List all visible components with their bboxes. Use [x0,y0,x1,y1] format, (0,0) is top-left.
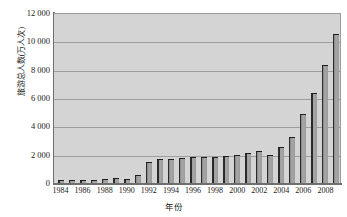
y-tick-label: 12 000 [2,9,50,17]
bar [333,34,339,183]
x-axis-title: 年份 [0,200,347,212]
gridline [54,156,340,157]
gridline [54,99,340,100]
y-tick-label: 2 000 [2,151,50,159]
x-axis-tick-labels: 1984198619881990199219941996199820002002… [0,186,347,198]
plot-area [54,13,341,183]
bar [322,65,328,183]
bar [190,157,196,183]
bar [256,151,262,183]
bar [157,159,163,183]
y-tick-label: 4 000 [2,122,50,130]
bar [179,158,185,183]
bar [267,155,273,183]
bar [135,175,141,183]
bar [300,114,306,183]
bar [168,159,174,183]
bar [278,147,284,183]
bar [201,157,207,183]
bar [245,153,251,183]
bar [311,93,317,183]
bar [234,155,240,183]
bar [146,162,152,183]
gridline [54,42,340,43]
bar-chart: 旅游总人数(万人次) 12 00010 0008 0006 0004 0002 … [0,0,347,217]
y-tick-label: 6 000 [2,94,50,102]
plot-inner [54,14,340,183]
x-tick-label: 2008 [310,186,340,195]
y-axis-tick-labels: 12 00010 0008 0006 0004 0002 0000 [0,0,50,217]
bar [289,137,295,183]
gridline [54,127,340,128]
bar [223,156,229,183]
x-axis-line [53,183,342,185]
y-tick-label: 10 000 [2,37,50,45]
bar [212,157,218,183]
gridline [54,71,340,72]
y-tick-label: 8 000 [2,66,50,74]
